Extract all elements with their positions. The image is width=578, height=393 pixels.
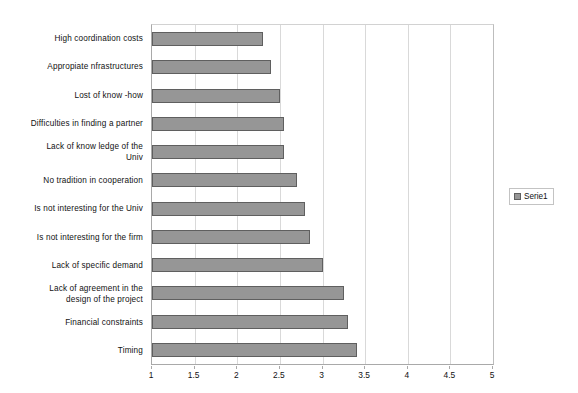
category-axis: High coordination costs Appropiate nfras…	[0, 24, 148, 365]
bar-slot	[152, 223, 493, 251]
bar-slot	[152, 195, 493, 223]
bar-slot	[152, 166, 493, 194]
x-tick-mark	[151, 366, 152, 369]
category-label: Appropiate nfrastructures	[0, 52, 148, 80]
category-label: Lack of agreement in the design of the p…	[0, 280, 148, 308]
bars-layer	[152, 25, 493, 364]
category-label: Is not interesting for the firm	[0, 223, 148, 251]
x-tick-label: 2	[234, 370, 239, 380]
x-tick-mark	[236, 366, 237, 369]
x-tick-label: 3.5	[358, 370, 370, 380]
bar[interactable]	[152, 32, 263, 46]
x-tick-label: 2.5	[273, 370, 285, 380]
bar[interactable]	[152, 202, 305, 216]
bar[interactable]	[152, 173, 297, 187]
bar-slot	[152, 110, 493, 138]
bar[interactable]	[152, 343, 357, 357]
bar-slot	[152, 53, 493, 81]
category-label: Difficulties in finding a partner	[0, 109, 148, 137]
category-label: Lack of know ledge of the Univ	[0, 138, 148, 166]
bar-slot	[152, 336, 493, 364]
x-tick-label: 1.5	[188, 370, 200, 380]
x-tick-mark	[492, 366, 493, 369]
category-label: Financial constraints	[0, 308, 148, 336]
bar[interactable]	[152, 89, 280, 103]
x-tick-mark	[194, 366, 195, 369]
category-label: No tradition in cooperation	[0, 166, 148, 194]
x-tick-mark	[279, 366, 280, 369]
x-tick-label: 5	[490, 370, 495, 380]
value-axis: 11.522.533.544.55	[151, 366, 494, 384]
x-tick-mark	[407, 366, 408, 369]
x-tick-mark	[322, 366, 323, 369]
bar[interactable]	[152, 230, 310, 244]
bar[interactable]	[152, 117, 284, 131]
bar-slot	[152, 251, 493, 279]
plot-area	[151, 24, 494, 365]
x-tick-label: 1	[149, 370, 154, 380]
category-label: Lack of specific demand	[0, 251, 148, 279]
category-label: Is not interesting for the Univ	[0, 195, 148, 223]
x-tick-mark	[364, 366, 365, 369]
bar[interactable]	[152, 145, 284, 159]
bar[interactable]	[152, 258, 323, 272]
category-label: Timing	[0, 337, 148, 365]
x-tick-label: 4	[404, 370, 409, 380]
bar-slot	[152, 138, 493, 166]
legend-swatch-serie1	[514, 193, 521, 200]
x-tick-label: 4.5	[444, 370, 456, 380]
bar-slot	[152, 82, 493, 110]
bar[interactable]	[152, 60, 271, 74]
legend-label-serie1: Serie1	[524, 192, 548, 201]
bar[interactable]	[152, 286, 344, 300]
bar-slot	[152, 25, 493, 53]
legend: Serie1	[509, 188, 554, 205]
bar[interactable]	[152, 315, 348, 329]
x-tick-label: 3	[319, 370, 324, 380]
x-tick-mark	[449, 366, 450, 369]
category-label: High coordination costs	[0, 24, 148, 52]
category-label: Lost of know -how	[0, 81, 148, 109]
bar-chart: High coordination costs Appropiate nfras…	[0, 0, 578, 393]
gridline	[493, 25, 494, 364]
bar-slot	[152, 308, 493, 336]
bar-slot	[152, 279, 493, 307]
